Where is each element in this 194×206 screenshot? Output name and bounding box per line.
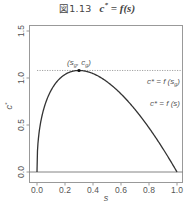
y-tick-label: 1.5 [16, 25, 26, 37]
x-tick-label: 1.0 [171, 185, 183, 195]
y-axis-label: c* [4, 102, 14, 110]
x-tick-label: 0.4 [87, 185, 99, 195]
peak-point [77, 69, 80, 72]
y-tick-label: 1.0 [16, 72, 26, 84]
y-tick-label: 0.0 [16, 166, 26, 178]
x-tick-label: 0.2 [59, 185, 71, 195]
chart-plot: 0.00.51.01.5 0.00.20.40.60.81.0 s c* (sg… [0, 0, 194, 206]
peak-label: (sg, cg) [67, 58, 91, 68]
golden-rule-label: c* = f (sg) [147, 77, 180, 87]
x-tick-label: 0.8 [143, 185, 155, 195]
curve-label: c* = f (s) [150, 99, 180, 108]
y-axis: 0.00.51.01.5 [16, 25, 30, 178]
x-tick-label: 0.6 [115, 185, 127, 195]
x-axis-label: s [104, 193, 109, 203]
y-tick-label: 0.5 [16, 119, 26, 131]
x-tick-label: 0.0 [31, 185, 43, 195]
